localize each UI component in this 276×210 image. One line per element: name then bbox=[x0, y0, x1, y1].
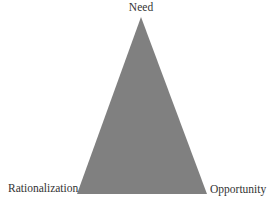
triangle-fill bbox=[77, 17, 207, 194]
triangle-shape bbox=[0, 0, 276, 210]
fraud-triangle-diagram: Need Rationalization Opportunity bbox=[0, 0, 276, 210]
vertex-label-opportunity: Opportunity bbox=[210, 184, 266, 196]
vertex-label-need: Need bbox=[129, 2, 153, 14]
vertex-label-rationalization: Rationalization bbox=[8, 183, 78, 195]
